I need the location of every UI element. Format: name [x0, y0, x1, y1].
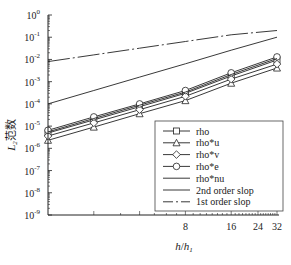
legend-label: rho: [196, 126, 209, 137]
x-tick-label: 16: [226, 221, 236, 232]
legend-label: rho*nu: [196, 173, 224, 184]
y-tick-label: 100: [27, 8, 41, 21]
y-tick-labels: 10010-110-210-310-410-510-610-710-810-9: [24, 8, 40, 221]
legend-label: rho*e: [196, 161, 219, 172]
y-axis-label: L2范数: [4, 119, 19, 152]
legend-label: rho*u: [196, 137, 219, 148]
legend-label: 1st order slop: [196, 196, 250, 207]
x-tick-label: 32: [272, 221, 282, 232]
y-tick-label: 10-4: [24, 97, 40, 110]
x-tick-labels: 8162432: [183, 221, 282, 232]
y-tick-label: 10-3: [24, 75, 40, 88]
y-tick-label: 10-6: [24, 141, 40, 154]
x-axis-label: h/h1: [175, 240, 193, 254]
convergence-chart: 10010-110-210-310-410-510-610-710-810-9 …: [0, 0, 291, 265]
y-tick-label: 10-7: [24, 164, 40, 177]
x-tick-label: 24: [253, 221, 263, 232]
x-tick-label: 8: [183, 221, 188, 232]
y-tick-label: 10-5: [24, 119, 40, 132]
legend-label: 2nd order slop: [196, 185, 254, 196]
y-tick-label: 10-9: [24, 208, 40, 221]
series-1st-order-slop: [48, 31, 277, 62]
y-tick-label: 10-8: [24, 186, 40, 199]
y-tick-label: 10-2: [24, 52, 40, 65]
legend-label: rho*v: [196, 149, 219, 160]
svg-text:L2范数: L2范数: [4, 119, 19, 152]
legend: rhorho*urho*vrho*erho*nu2nd order slop1s…: [155, 121, 283, 211]
y-tick-label: 10-1: [24, 30, 40, 43]
